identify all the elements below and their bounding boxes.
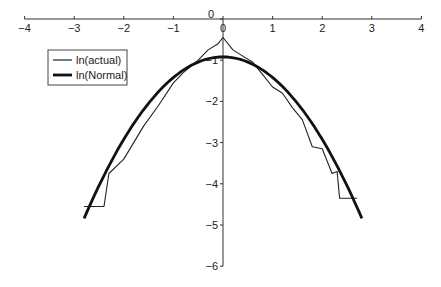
y-tick-label: −2 — [205, 95, 218, 107]
legend: ln(actual) ln(Normal) — [48, 50, 127, 85]
axes: −4−3−2−1012340−1−2−3−4−5−6 — [18, 8, 424, 272]
x-tick-label: 2 — [319, 22, 325, 34]
y-tick-label: −5 — [205, 219, 218, 231]
y-tick-label: −3 — [205, 137, 218, 149]
y-tick-label: −6 — [205, 260, 218, 272]
chart-canvas: −4−3−2−1012340−1−2−3−4−5−6 ln(actual) ln… — [0, 0, 441, 287]
legend-label-normal: ln(Normal) — [76, 69, 127, 81]
x-tick-label: −1 — [167, 22, 180, 34]
x-tick-label: −2 — [118, 22, 131, 34]
x-tick-label: 3 — [369, 22, 375, 34]
x-tick-label: 4 — [418, 22, 424, 34]
legend-label-actual: ln(actual) — [76, 54, 121, 66]
y-tick-label: −4 — [205, 178, 218, 190]
x-tick-label: 1 — [270, 22, 276, 34]
y-tick-label: 0 — [208, 8, 214, 20]
x-tick-label: −3 — [68, 22, 81, 34]
x-tick-label: −4 — [18, 22, 31, 34]
